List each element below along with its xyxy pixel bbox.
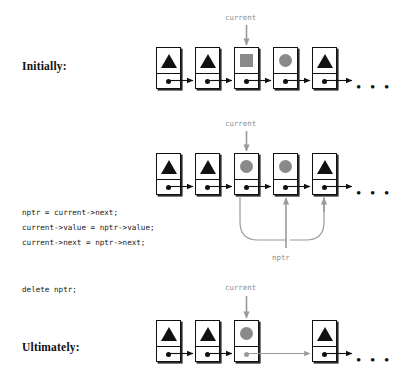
- list-node: [195, 320, 220, 362]
- list-node: [312, 320, 337, 362]
- node-value-cell: [313, 321, 336, 346]
- node-value-cell: [274, 48, 297, 73]
- node-next-cell: [313, 74, 336, 89]
- pointer-label-current-row2: current: [225, 119, 256, 128]
- list-node: [312, 47, 337, 89]
- nptr-pointer-paths: [240, 196, 324, 248]
- node-value-cell: [157, 321, 180, 346]
- node-next-cell: [313, 180, 336, 195]
- dot-icon: [283, 79, 288, 84]
- pointer-label-current-row1: current: [225, 13, 256, 22]
- node-value-cell: [274, 154, 297, 179]
- node-value-cell: [196, 154, 219, 179]
- node-value-cell: [196, 48, 219, 73]
- node-next-cell: [196, 74, 219, 89]
- ellipsis-row2: • • •: [356, 186, 392, 201]
- list-node-current: [234, 153, 259, 195]
- node-value-cell: [313, 48, 336, 73]
- triangle-icon: [317, 54, 333, 68]
- list-node: [156, 320, 181, 362]
- list-node: [195, 153, 220, 195]
- dot-icon: [205, 185, 210, 190]
- node-next-cell: [274, 180, 297, 195]
- list-node: [195, 47, 220, 89]
- dot-icon: [244, 79, 249, 84]
- triangle-icon: [200, 160, 216, 174]
- node-next-cell: [196, 347, 219, 362]
- node-value-cell: [313, 154, 336, 179]
- node-next-cell: [235, 74, 258, 89]
- node-next-cell: [157, 74, 180, 89]
- triangle-icon: [200, 327, 216, 341]
- node-next-cell: [235, 180, 258, 195]
- dot-icon: [322, 79, 327, 84]
- triangle-icon: [200, 54, 216, 68]
- ellipsis-row3: • • •: [356, 353, 392, 368]
- code-line-3: current->next = nptr->next;: [22, 238, 145, 247]
- code-line-2: current->value = nptr->value;: [22, 223, 155, 232]
- circle-icon: [279, 160, 292, 173]
- triangle-icon: [161, 327, 177, 341]
- node-next-cell: [313, 347, 336, 362]
- list-node: [312, 153, 337, 195]
- dot-icon: [322, 352, 327, 357]
- dot-icon: [244, 352, 249, 357]
- node-next-cell: [157, 180, 180, 195]
- node-next-cell: [235, 347, 258, 362]
- code-line-delete: delete nptr;: [22, 285, 77, 294]
- triangle-icon: [317, 160, 333, 174]
- dot-icon: [166, 352, 171, 357]
- dot-icon: [244, 185, 249, 190]
- pointer-label-current-row3: current: [225, 283, 256, 292]
- triangle-icon: [161, 160, 177, 174]
- circle-icon: [240, 160, 253, 173]
- dot-icon: [205, 79, 210, 84]
- node-next-cell: [196, 180, 219, 195]
- node-value-cell: [235, 154, 258, 179]
- triangle-icon: [161, 54, 177, 68]
- dot-icon: [166, 79, 171, 84]
- node-value-cell: [157, 48, 180, 73]
- dot-icon: [283, 185, 288, 190]
- row-label-ultimately: Ultimately:: [22, 341, 80, 353]
- node-value-cell: [235, 48, 258, 73]
- node-value-cell: [196, 321, 219, 346]
- triangle-icon: [317, 327, 333, 341]
- node-value-cell: [235, 321, 258, 346]
- ellipsis-row1: • • •: [356, 80, 392, 95]
- list-node: [156, 153, 181, 195]
- dot-icon: [166, 185, 171, 190]
- list-node-nptr: [273, 153, 298, 195]
- figure-canvas: Initially: current • • • current: [0, 0, 398, 387]
- node-value-cell: [157, 154, 180, 179]
- list-node-current: [234, 47, 259, 89]
- circle-icon: [240, 327, 253, 340]
- circle-icon: [279, 54, 292, 67]
- dot-icon: [322, 185, 327, 190]
- row-label-initially: Initially:: [22, 60, 67, 72]
- node-next-cell: [274, 74, 297, 89]
- dot-icon: [205, 352, 210, 357]
- list-node: [156, 47, 181, 89]
- node-next-cell: [157, 347, 180, 362]
- list-node-current: [234, 320, 259, 362]
- square-icon: [240, 54, 253, 67]
- pointer-label-nptr: nptr: [272, 253, 290, 262]
- list-node: [273, 47, 298, 89]
- code-line-1: nptr = current->next;: [22, 208, 118, 217]
